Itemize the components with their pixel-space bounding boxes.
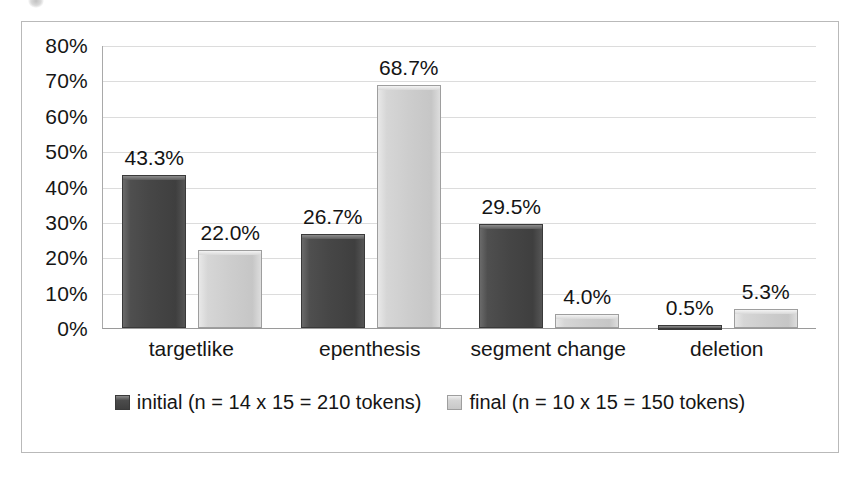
legend-label: initial (n = 14 x 15 = 210 tokens) [137,391,422,414]
bar-value-label: 5.3% [706,280,826,304]
bar-group: 26.7%68.7% [282,46,461,328]
dark-swatch-icon [115,395,130,410]
bar-front-face [658,328,722,330]
scan-artifact-top [28,0,44,8]
bar-top-face [198,250,262,255]
y-axis-tick-label: 60% [45,105,88,129]
bar-top-face [555,314,619,319]
bar-front-face [301,238,365,328]
legend-entry-final[interactable]: final (n = 10 x 15 = 150 tokens) [447,391,745,414]
y-axis-tick-label: 50% [45,140,88,164]
x-axis-label-deletion: deletion [690,337,764,361]
bar-deletion-final[interactable] [734,309,798,328]
bar-deletion-initial[interactable] [658,325,722,328]
bar-top-face [122,175,186,180]
bar-value-label: 43.3% [94,146,214,170]
bar-epenthesis-initial[interactable] [301,234,365,328]
y-axis-tick-label: 70% [45,69,88,93]
x-axis-label-targetlike: targetlike [149,337,234,361]
plot-area: 43.3%22.0%26.7%68.7%29.5%4.0%0.5%5.3% [102,46,816,329]
bar-top-face [734,309,798,314]
y-axis-tick-label: 20% [45,246,88,270]
plot-region: 43.3%22.0%26.7%68.7%29.5%4.0%0.5%5.3% [102,46,816,329]
bar-targetlike-final[interactable] [198,250,262,328]
bar-group: 0.5%5.3% [639,46,818,328]
x-axis-label-epenthesis: epenthesis [319,337,421,361]
bar-top-face [479,224,543,229]
bar-top-face [658,325,722,328]
bar-front-face [734,313,798,328]
y-axis-tick-label: 10% [45,282,88,306]
bar-segment-change-initial[interactable] [479,224,543,328]
x-axis-label-segment-change: segment change [471,337,626,361]
bar-front-face [555,318,619,328]
legend-entry-initial[interactable]: initial (n = 14 x 15 = 210 tokens) [115,391,422,414]
y-axis-tick-label: 40% [45,176,88,200]
bar-front-face [122,179,186,328]
bar-epenthesis-final[interactable] [377,85,441,328]
bar-front-face [479,228,543,328]
y-axis: 80%70%60%50%40%30%20%10%0% [22,46,96,329]
legend-label: final (n = 10 x 15 = 150 tokens) [469,391,745,414]
bar-top-face [377,85,441,90]
bar-front-face [377,89,441,328]
bar-group: 43.3%22.0% [103,46,282,328]
y-axis-tick-label: 80% [45,34,88,58]
bar-segment-change-final[interactable] [555,314,619,328]
y-axis-tick-label: 30% [45,211,88,235]
y-axis-tick-label: 0% [57,317,88,341]
bar-front-face [198,254,262,328]
bar-value-label: 29.5% [451,195,571,219]
chart-frame: 80%70%60%50%40%30%20%10%0% 43.3%22.0%26.… [21,21,839,453]
bar-value-label: 68.7% [349,56,469,80]
x-axis-category-labels: targetlikeepenthesissegment changedeleti… [102,337,816,371]
bar-top-face [301,234,365,239]
light-swatch-icon [447,395,462,410]
bar-group: 29.5%4.0% [460,46,639,328]
chart-legend: initial (n = 14 x 15 = 210 tokens)final … [22,391,838,414]
bar-value-label: 26.7% [273,205,393,229]
bar-targetlike-initial[interactable] [122,175,186,328]
